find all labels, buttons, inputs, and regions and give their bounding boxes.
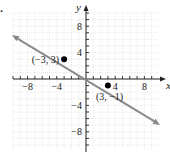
coordinate-plane: xy −8−44884−4−8 (−3, 3)(3, −1) xyxy=(0,0,170,153)
x-tick-label: −4 xyxy=(51,81,62,92)
data-points: (−3, 3)(3, −1) xyxy=(32,54,123,102)
y-axis-label: y xyxy=(75,1,81,13)
x-tick-label: 8 xyxy=(142,81,147,92)
x-tick-label: −8 xyxy=(22,81,33,92)
y-tick-label: −4 xyxy=(71,100,82,111)
y-tick-label: 8 xyxy=(77,21,82,32)
point-label: (−3, 3) xyxy=(32,54,59,66)
data-point xyxy=(105,83,111,89)
x-axis-label: x xyxy=(165,79,170,91)
y-tick-label: 4 xyxy=(77,47,82,58)
axes: xy xyxy=(13,1,170,152)
data-point xyxy=(61,56,67,62)
y-tick-label: −8 xyxy=(71,126,82,137)
point-label: (3, −1) xyxy=(96,91,123,103)
